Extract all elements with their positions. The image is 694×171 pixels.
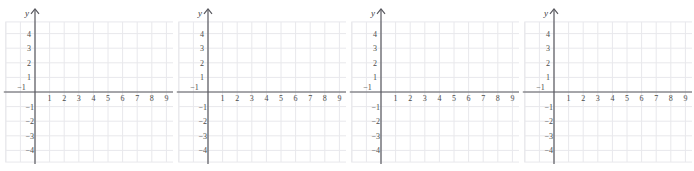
x-tick-label-negative: −1 [363, 83, 372, 92]
y-tick-label: 4 [200, 30, 204, 39]
x-tick-label: 7 [654, 94, 658, 103]
grid-svg: 123456789−14321−1−2−3−4xy [519, 0, 692, 171]
y-tick-label-negative: −2 [25, 117, 34, 126]
y-axis-label: y [197, 8, 202, 18]
y-tick-label-negative: −2 [198, 117, 207, 126]
coordinate-grid-4[interactable]: 123456789−14321−1−2−3−4xy [519, 0, 692, 171]
y-tick-label-negative: −3 [198, 132, 207, 141]
x-tick-label: 4 [610, 94, 614, 103]
x-tick-label: 7 [481, 94, 485, 103]
y-tick-label: 2 [200, 59, 204, 68]
x-tick-label: 8 [323, 94, 327, 103]
x-tick-label: 9 [164, 94, 168, 103]
y-tick-label-negative: −1 [544, 103, 553, 112]
y-tick-label: 1 [546, 73, 550, 82]
x-tick-label-negative: −1 [190, 83, 199, 92]
y-tick-label: 3 [200, 44, 204, 53]
y-tick-label-negative: −1 [371, 103, 380, 112]
x-tick-label: 3 [423, 94, 427, 103]
y-tick-label: 3 [546, 44, 550, 53]
y-tick-label: 2 [373, 59, 377, 68]
y-tick-label: 3 [373, 44, 377, 53]
x-tick-label: 2 [408, 94, 412, 103]
y-tick-label-negative: −4 [371, 146, 380, 155]
y-tick-label: 4 [27, 30, 31, 39]
x-tick-label: 9 [337, 94, 341, 103]
graphs-container: 123456789−14321−1−2−3−4xy123456789−14321… [0, 0, 694, 171]
x-tick-label: 5 [452, 94, 456, 103]
x-tick-label: 1 [394, 94, 398, 103]
x-tick-label: 5 [625, 94, 629, 103]
x-tick-label: 4 [264, 94, 268, 103]
y-tick-label-negative: −4 [25, 146, 34, 155]
y-tick-label-negative: −3 [371, 132, 380, 141]
x-tick-label: 3 [77, 94, 81, 103]
y-tick-label-negative: −1 [198, 103, 207, 112]
y-tick-label: 2 [546, 59, 550, 68]
y-tick-label: 1 [200, 73, 204, 82]
y-tick-label-negative: −3 [544, 132, 553, 141]
y-tick-label-negative: −2 [371, 117, 380, 126]
x-tick-label: 6 [121, 94, 125, 103]
x-tick-label: 7 [308, 94, 312, 103]
x-tick-label: 2 [235, 94, 239, 103]
y-tick-label-negative: −4 [198, 146, 207, 155]
x-tick-label: 9 [510, 94, 514, 103]
grid-svg: 123456789−14321−1−2−3−4xy [173, 0, 346, 171]
y-tick-label-negative: −1 [25, 103, 34, 112]
x-tick-label-negative: −1 [17, 83, 26, 92]
y-axis-label: y [543, 8, 548, 18]
x-tick-label-negative: −1 [536, 83, 545, 92]
x-tick-label: 6 [467, 94, 471, 103]
y-tick-label: 2 [27, 59, 31, 68]
x-tick-label: 9 [683, 94, 687, 103]
y-tick-label: 3 [27, 44, 31, 53]
x-tick-label: 6 [640, 94, 644, 103]
coordinate-grid-3[interactable]: 123456789−14321−1−2−3−4xy [346, 0, 519, 171]
coordinate-grid-1[interactable]: 123456789−14321−1−2−3−4xy [0, 0, 173, 171]
x-tick-label: 8 [150, 94, 154, 103]
y-axis-label: y [24, 8, 29, 18]
x-tick-label: 4 [437, 94, 441, 103]
coordinate-grid-2[interactable]: 123456789−14321−1−2−3−4xy [173, 0, 346, 171]
x-tick-label: 2 [62, 94, 66, 103]
x-tick-label: 2 [581, 94, 585, 103]
x-tick-label: 8 [669, 94, 673, 103]
x-tick-label: 1 [221, 94, 225, 103]
grid-svg: 123456789−14321−1−2−3−4xy [0, 0, 173, 171]
y-tick-label: 1 [27, 73, 31, 82]
y-tick-label: 4 [546, 30, 550, 39]
x-tick-label: 5 [106, 94, 110, 103]
x-tick-label: 7 [135, 94, 139, 103]
x-tick-label: 3 [596, 94, 600, 103]
y-tick-label: 4 [373, 30, 377, 39]
x-tick-label: 5 [279, 94, 283, 103]
grid-svg: 123456789−14321−1−2−3−4xy [346, 0, 519, 171]
x-tick-label: 4 [91, 94, 95, 103]
y-tick-label: 1 [373, 73, 377, 82]
y-tick-label-negative: −2 [544, 117, 553, 126]
x-tick-label: 1 [48, 94, 52, 103]
y-axis-label: y [370, 8, 375, 18]
x-tick-label: 8 [496, 94, 500, 103]
y-tick-label-negative: −3 [25, 132, 34, 141]
x-tick-label: 1 [567, 94, 571, 103]
x-tick-label: 6 [294, 94, 298, 103]
y-tick-label-negative: −4 [544, 146, 553, 155]
x-tick-label: 3 [250, 94, 254, 103]
